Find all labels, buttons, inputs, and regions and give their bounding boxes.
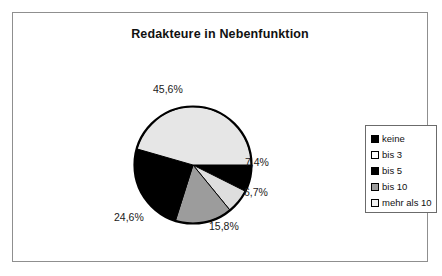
legend-label: bis 3 <box>382 150 402 160</box>
legend-swatch-icon <box>371 151 379 159</box>
legend-item-bis-3: bis 3 <box>371 147 432 162</box>
legend-label: bis 10 <box>382 182 407 192</box>
legend-label: keine <box>382 134 405 144</box>
legend-item-keine: keine <box>371 131 432 146</box>
chart-title: Redakteure in Nebenfunktion <box>13 27 427 41</box>
data-label-bis-10: 24,6% <box>114 211 144 223</box>
legend-swatch-icon <box>371 183 379 191</box>
chart-legend: keine bis 3 bis 5 bis 10 mehr als 10 <box>365 125 437 213</box>
legend-label: bis 5 <box>382 166 402 176</box>
legend-label: mehr als 10 <box>382 198 432 208</box>
legend-item-mehr-als-10: mehr als 10 <box>371 195 432 210</box>
chart-frame: Redakteure in Nebenfunktion 7,4% 6,7% 15… <box>12 12 428 262</box>
data-label-keine: 7,4% <box>245 156 269 168</box>
legend-item-bis-5: bis 5 <box>371 163 432 178</box>
legend-swatch-icon <box>371 199 379 207</box>
data-label-mehr-als-10: 45,6% <box>153 83 183 95</box>
data-label-bis-5: 15,8% <box>209 220 239 232</box>
legend-swatch-icon <box>371 167 379 175</box>
data-label-bis-3: 6,7% <box>244 186 268 198</box>
legend-item-bis-10: bis 10 <box>371 179 432 194</box>
legend-swatch-icon <box>371 135 379 143</box>
